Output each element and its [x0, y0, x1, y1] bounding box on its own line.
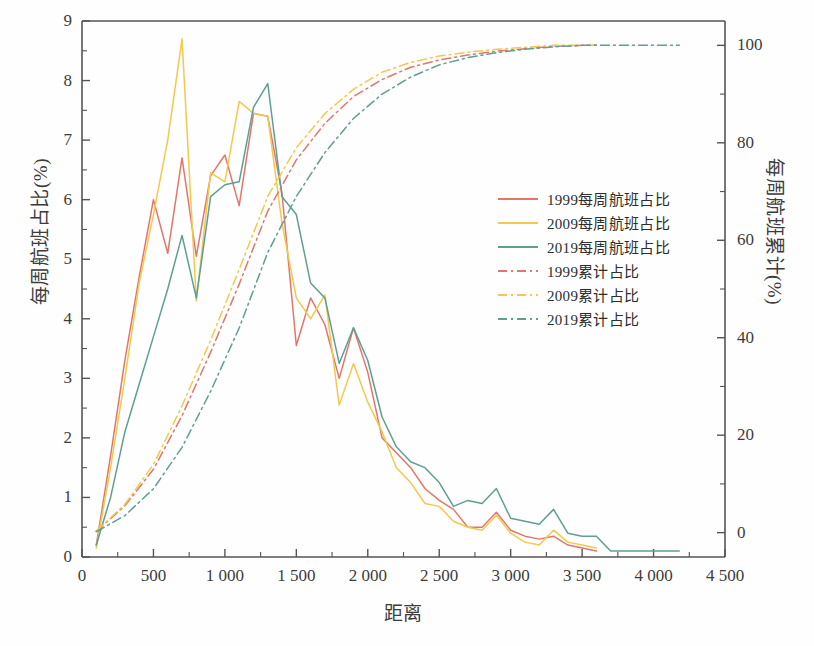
legend-label: 2019每周航班占比	[547, 236, 670, 257]
y-tick-label: 1	[42, 487, 72, 507]
y-tick-label: 5	[42, 249, 72, 269]
y-tick-label: 9	[42, 11, 72, 31]
y-tick-label: 6	[42, 190, 72, 210]
legend-line-icon	[497, 288, 539, 301]
legend-label: 2019累计占比	[547, 308, 639, 329]
y2-tick-label: 40	[737, 328, 777, 348]
y2-tick-label: 80	[737, 133, 777, 153]
legend-item[interactable]: 2009每周航班占比	[497, 210, 670, 234]
y-axis-left-title: 每周航班占比(%)	[25, 132, 52, 332]
x-tick-label: 0	[78, 566, 87, 586]
legend-label: 2009每周航班占比	[547, 212, 670, 233]
legend-line-icon	[497, 264, 539, 277]
legend-label: 2009累计占比	[547, 284, 639, 305]
y-tick-label: 7	[42, 130, 72, 150]
chart-legend: 1999每周航班占比2009每周航班占比2019每周航班占比1999累计占比20…	[497, 186, 670, 330]
chart-canvas	[0, 0, 814, 646]
legend-item[interactable]: 1999每周航班占比	[497, 186, 670, 210]
legend-item[interactable]: 2009累计占比	[497, 282, 670, 306]
legend-line-icon	[497, 192, 539, 205]
x-tick-label: 4 500	[706, 566, 744, 586]
legend-item[interactable]: 1999累计占比	[497, 258, 670, 282]
legend-line-icon	[497, 240, 539, 253]
x-tick-label: 3 000	[492, 566, 530, 586]
x-axis-title: 距离	[303, 598, 503, 625]
y2-tick-label: 60	[737, 230, 777, 250]
x-tick-label: 3 500	[563, 566, 601, 586]
legend-item[interactable]: 2019累计占比	[497, 306, 670, 330]
x-tick-label: 1 500	[277, 566, 315, 586]
y-tick-label: 4	[42, 309, 72, 329]
y2-tick-label: 100	[737, 35, 777, 55]
legend-label: 1999每周航班占比	[547, 188, 670, 209]
y2-tick-label: 20	[737, 425, 777, 445]
y-tick-label: 8	[42, 71, 72, 91]
x-tick-label: 2 500	[420, 566, 458, 586]
legend-line-icon	[497, 312, 539, 325]
y-tick-label: 3	[42, 368, 72, 388]
x-tick-label: 500	[141, 566, 167, 586]
y-tick-label: 0	[42, 547, 72, 567]
y-tick-label: 2	[42, 428, 72, 448]
legend-item[interactable]: 2019每周航班占比	[497, 234, 670, 258]
x-tick-label: 1 000	[206, 566, 244, 586]
x-tick-label: 2 000	[349, 566, 387, 586]
y2-tick-label: 0	[737, 523, 777, 543]
legend-line-icon	[497, 216, 539, 229]
x-tick-label: 4 000	[634, 566, 672, 586]
legend-label: 1999累计占比	[547, 260, 639, 281]
series-line-0	[96, 113, 596, 551]
chart-figure: 每周航班占比(%) 每周航班累计(%) 距离 05001 0001 5002 0…	[0, 0, 814, 646]
